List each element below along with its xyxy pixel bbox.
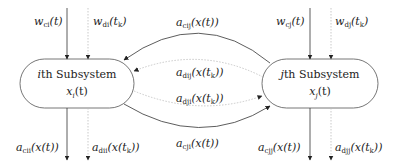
label-wcj: wcj(t) xyxy=(276,16,305,29)
label-acii: acii(x(t)) xyxy=(16,142,59,155)
label-adij: adij(x(tk)) xyxy=(176,67,224,80)
coupling-arrow-acij xyxy=(124,33,270,63)
coupling-arrow-acji xyxy=(124,104,270,128)
label-acjj: acjj(x(t)) xyxy=(258,142,301,155)
label-adii: adii(x(tk)) xyxy=(92,142,140,155)
label-adjj: adjj(x(tk)) xyxy=(335,142,382,155)
subsystem-j-box xyxy=(262,59,378,108)
label-acij: acij(x(t)) xyxy=(176,17,219,30)
label-wci: wci(t) xyxy=(34,16,63,29)
label-wdj: wdj(tk) xyxy=(335,16,368,29)
subsystem-i-state: xi(t) xyxy=(20,86,134,100)
subsystem-i-title: ith Subsystem xyxy=(20,69,134,80)
label-acji: acji(x(t)) xyxy=(176,138,219,151)
label-wdi: wdi(tk) xyxy=(93,16,126,29)
label-adji: adji(x(tk)) xyxy=(176,93,224,106)
subsystem-i-box xyxy=(20,59,134,108)
subsystem-j-title: jth Subsystem xyxy=(262,69,378,80)
subsystem-j-state: xj(t) xyxy=(262,86,378,100)
